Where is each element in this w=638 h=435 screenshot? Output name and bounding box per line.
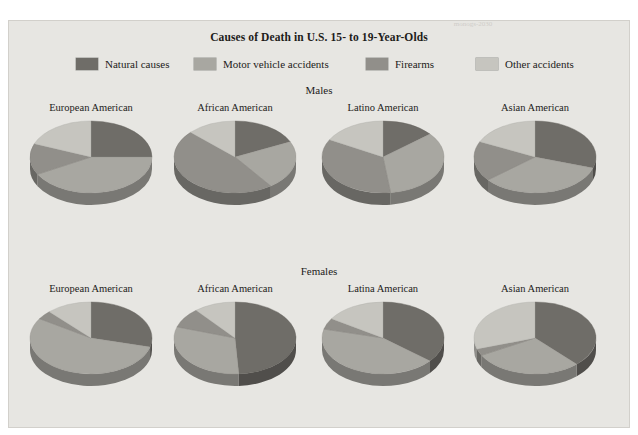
legend-item-1: Motor vehicle accidents [194,56,329,72]
legend-swatch-icon [194,58,216,70]
pie-stage [173,301,297,397]
pie-top-face [29,120,153,194]
page-top-fragment: monogs-2030 [428,20,518,28]
chart-legend: Natural causesMotor vehicle accidentsFir… [8,56,630,74]
pie-top-face [473,301,597,375]
pie-row-females: European AmericanAfrican AmericanLatina … [8,283,630,408]
pie-stage [473,301,597,397]
legend-swatch-icon [366,58,388,70]
pie-caption: African American [160,283,310,294]
pie-chart-0-0: European American [16,102,166,227]
pie-caption: African American [160,102,310,113]
pie-stage [29,120,153,216]
pie-chart-1-0: European American [16,283,166,408]
pie-caption: European American [16,102,166,113]
pie-chart-1-3: Asian American [460,283,610,408]
legend-label: Natural causes [105,58,169,70]
pie-stage [29,301,153,397]
pie-slice [235,302,296,374]
pie-row-males: European AmericanAfrican AmericanLatino … [8,102,630,227]
pie-caption: Latina American [308,283,458,294]
legend-swatch-icon [76,58,98,70]
pie-chart-1-1: African American [160,283,310,408]
pie-chart-0-2: Latino American [308,102,458,227]
pie-chart-1-2: Latina American [308,283,458,408]
pie-top-face [321,120,445,194]
pie-chart-0-3: Asian American [460,102,610,227]
pie-stage [321,120,445,216]
legend-swatch-icon [476,58,498,70]
pie-caption: Latino American [308,102,458,113]
pie-top-face [173,120,297,194]
legend-label: Other accidents [505,58,574,70]
legend-label: Motor vehicle accidents [223,58,329,70]
legend-label: Firearms [395,58,434,70]
pie-chart-0-1: African American [160,102,310,227]
pie-caption: Asian American [460,102,610,113]
pie-top-face [321,301,445,375]
pie-stage [173,120,297,216]
pie-caption: Asian American [460,283,610,294]
pie-slice [91,121,152,157]
pie-caption: European American [16,283,166,294]
figure-panel: monogs-2030 Causes of Death in U.S. 15- … [8,20,630,428]
legend-item-0: Natural causes [76,56,169,72]
section-label-males: Males [8,84,630,96]
section-label-females: Females [8,265,630,277]
pie-top-face [29,301,153,375]
pie-stage [473,120,597,216]
pie-stage [321,301,445,397]
legend-item-3: Other accidents [476,56,574,72]
pie-top-face [173,301,297,375]
legend-item-2: Firearms [366,56,434,72]
chart-title: Causes of Death in U.S. 15- to 19-Year-O… [8,31,630,43]
pie-top-face [473,120,597,194]
